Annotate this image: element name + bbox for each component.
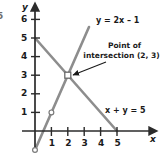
cropped-tick-label: 5	[0, 12, 3, 21]
line1-equation-label: y = 2x – 1	[96, 17, 139, 25]
y-tick-label-5: 5	[21, 34, 27, 43]
graph-figure: 5 y x 1 2 3 4 5 6 1 2 3 4 5 y = 2x – 1 x…	[0, 0, 164, 158]
x-tick-label-4: 4	[98, 139, 104, 148]
x-tick-label-2: 2	[65, 139, 71, 148]
point-marker-1-1	[49, 110, 54, 115]
point-marker-0-minus1	[33, 148, 38, 153]
x-tick-label-3: 3	[82, 139, 88, 148]
x-tick-label-5: 5	[114, 139, 120, 148]
y-tick-label-1: 1	[21, 108, 27, 117]
y-axis-label: y	[22, 3, 28, 12]
line2-equation-label: x + y = 5	[105, 107, 146, 115]
intersection-point-marker	[65, 72, 71, 78]
x-axis-label: x	[150, 135, 156, 144]
intersection-callout-line1: Point of	[85, 41, 164, 50]
x-tick-label-1: 1	[49, 139, 55, 148]
intersection-callout-line2: intersection (2, 3)	[79, 51, 164, 60]
y-tick-label-3: 3	[21, 71, 27, 80]
callout-leader-arrow	[73, 62, 106, 75]
y-tick-label-2: 2	[21, 89, 27, 98]
y-tick-label-6: 6	[21, 15, 27, 24]
y-tick-label-4: 4	[21, 52, 27, 61]
